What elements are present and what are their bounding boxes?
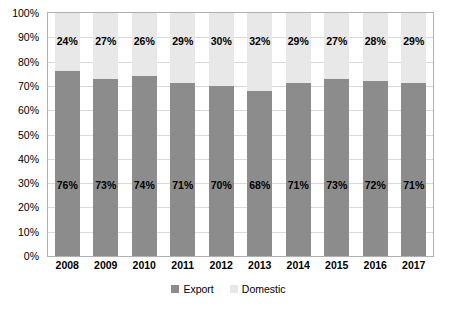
y-axis-tick-label: 0%	[24, 250, 39, 262]
bar-segment-domestic[interactable]	[286, 13, 311, 83]
bar-label-export: 68%	[247, 179, 272, 191]
bar-segment-export[interactable]	[247, 91, 272, 256]
bar-segment-domestic[interactable]	[363, 13, 388, 81]
bar-label-domestic: 29%	[170, 35, 195, 47]
legend-swatch-icon	[230, 285, 238, 293]
x-axis-tick-label: 2016	[356, 259, 395, 271]
x-axis-tick-label: 2008	[48, 259, 87, 271]
chart-legend: ExportDomestic	[0, 283, 457, 295]
bar-label-domestic: 27%	[93, 35, 118, 47]
bar-segment-export[interactable]	[401, 83, 426, 256]
y-axis-tick-label: 40%	[18, 153, 39, 165]
bar-group[interactable]: 32%68%	[247, 13, 272, 256]
bar-label-export: 74%	[132, 179, 157, 191]
x-axis-tick-label: 2009	[87, 259, 126, 271]
bar-label-export: 72%	[363, 179, 388, 191]
legend-label: Export	[183, 283, 213, 295]
bar-group[interactable]: 27%73%	[93, 13, 118, 256]
bar-label-domestic: 27%	[324, 35, 349, 47]
bar-label-export: 71%	[286, 179, 311, 191]
bar-label-export: 71%	[170, 179, 195, 191]
bar-group[interactable]: 29%71%	[170, 13, 195, 256]
bar-segment-domestic[interactable]	[170, 13, 195, 83]
y-axis-tick-label: 20%	[18, 201, 39, 213]
legend-item[interactable]: Domestic	[230, 283, 286, 295]
bar-segment-export[interactable]	[209, 86, 234, 256]
bar-label-domestic: 29%	[401, 35, 426, 47]
bar-group[interactable]: 24%76%	[55, 13, 80, 256]
x-axis-tick-label: 2012	[202, 259, 241, 271]
bar-label-domestic: 28%	[363, 35, 388, 47]
bar-segment-export[interactable]	[324, 79, 349, 256]
x-axis-tick-label: 2017	[395, 259, 434, 271]
bar-label-domestic: 32%	[247, 35, 272, 47]
legend-label: Domestic	[242, 283, 286, 295]
bar-segment-export[interactable]	[55, 71, 80, 256]
legend-swatch-icon	[171, 285, 179, 293]
y-axis-tick-label: 100%	[12, 7, 39, 19]
bar-group[interactable]: 28%72%	[363, 13, 388, 256]
bar-segment-export[interactable]	[286, 83, 311, 256]
bar-label-domestic: 30%	[209, 35, 234, 47]
y-axis-tick-label: 90%	[18, 31, 39, 43]
bar-label-export: 73%	[324, 179, 349, 191]
bars-layer: 24%76%27%73%26%74%29%71%30%70%32%68%29%7…	[48, 13, 433, 256]
y-axis-tick-label: 50%	[18, 129, 39, 141]
y-axis-tick-label: 70%	[18, 80, 39, 92]
x-axis-tick-label: 2010	[125, 259, 164, 271]
bar-label-export: 76%	[55, 179, 80, 191]
y-axis-tick-label: 30%	[18, 177, 39, 189]
y-axis-tick-label: 80%	[18, 56, 39, 68]
bar-segment-export[interactable]	[93, 79, 118, 256]
bar-segment-export[interactable]	[363, 81, 388, 256]
x-axis-tick-label: 2011	[164, 259, 203, 271]
bar-segment-export[interactable]	[132, 76, 157, 256]
bar-group[interactable]: 30%70%	[209, 13, 234, 256]
x-axis-tick-label: 2014	[279, 259, 318, 271]
y-axis-tick-label: 10%	[18, 226, 39, 238]
x-axis-tick-label: 2013	[241, 259, 280, 271]
bar-label-export: 70%	[209, 179, 234, 191]
bar-group[interactable]: 29%71%	[401, 13, 426, 256]
bar-group[interactable]: 27%73%	[324, 13, 349, 256]
y-axis-tick-label: 60%	[18, 104, 39, 116]
x-axis: 2008200920102011201220132014201520162017	[48, 259, 433, 277]
bar-segment-domestic[interactable]	[401, 13, 426, 83]
stacked-bar-chart: 0%10%20%30%40%50%60%70%80%90%100% 24%76%…	[0, 0, 457, 312]
bar-group[interactable]: 29%71%	[286, 13, 311, 256]
bar-label-export: 71%	[401, 179, 426, 191]
bar-label-domestic: 29%	[286, 35, 311, 47]
bar-label-domestic: 24%	[55, 35, 80, 47]
legend-item[interactable]: Export	[171, 283, 213, 295]
y-axis: 0%10%20%30%40%50%60%70%80%90%100%	[0, 12, 44, 257]
bar-label-domestic: 26%	[132, 35, 157, 47]
bar-segment-export[interactable]	[170, 83, 195, 256]
bar-label-export: 73%	[93, 179, 118, 191]
bar-group[interactable]: 26%74%	[132, 13, 157, 256]
bar-segment-domestic[interactable]	[209, 13, 234, 86]
bar-segment-domestic[interactable]	[247, 13, 272, 91]
x-axis-tick-label: 2015	[318, 259, 357, 271]
